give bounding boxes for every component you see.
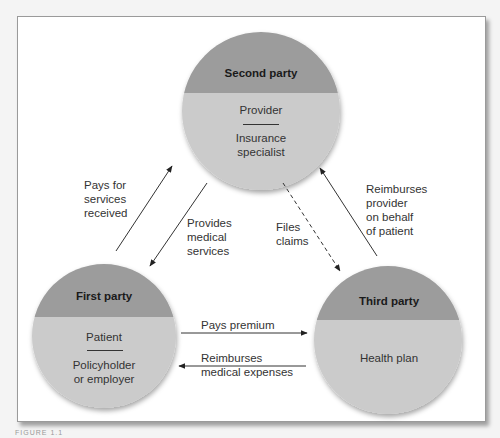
- provides-services-label: Provides medical services: [187, 216, 232, 258]
- second-party-title: Second party: [201, 66, 321, 80]
- files-claims-label: Files claims: [276, 220, 309, 248]
- third-party-subtitle: Health plan: [329, 351, 449, 365]
- second-party-divider: [243, 124, 279, 125]
- second-party-subtitle: Insurance specialist: [201, 131, 321, 159]
- first-party-divider: [87, 350, 123, 351]
- first-party-title: First party: [44, 289, 164, 303]
- first-party-role: Patient: [44, 330, 164, 344]
- third-party-title: Third party: [329, 294, 449, 308]
- first-party-subtitle: Policyholder or employer: [44, 358, 164, 386]
- second-party-role: Provider: [201, 103, 321, 117]
- reimburses-expenses-label: Reimburses medical expenses: [201, 351, 293, 379]
- pays-for-services-label: Pays for services received: [84, 178, 127, 220]
- third-party-circle: [305, 260, 475, 420]
- reimburses-provider-label: Reimburses provider on behalf of patient: [366, 182, 427, 238]
- figure-caption: FIGURE 1.1: [15, 429, 63, 436]
- pays-premium-label: Pays premium: [201, 318, 275, 332]
